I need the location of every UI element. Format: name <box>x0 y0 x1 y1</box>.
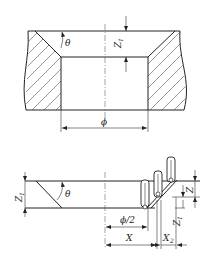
dimension-x2: X 2 <box>150 233 187 245</box>
z1-label-top-sub: 1 <box>117 38 124 42</box>
dimension-z1-top: Z 1 <box>113 16 126 72</box>
chamfer-edge-left <box>35 31 61 57</box>
x-label: X <box>125 233 133 243</box>
dimension-diameter: ϕ <box>61 110 148 132</box>
angle-arc-top <box>61 32 63 48</box>
z-step-label: Z <box>185 186 195 194</box>
half-diameter-label: ϕ/2 <box>120 215 135 225</box>
diameter-label: ϕ <box>101 117 107 127</box>
x2-label-main: X <box>162 233 170 243</box>
bottom-figure: θ Z 1 <box>14 157 200 249</box>
dimension-z-step: Z <box>185 170 195 208</box>
dimension-z1-right: Z 1 <box>172 185 185 227</box>
break-line-right <box>180 31 187 110</box>
tool-2 <box>154 171 162 197</box>
z1-label-right-sub: 1 <box>176 216 183 220</box>
x2-label-sub: 2 <box>169 237 174 244</box>
break-line-left <box>24 31 28 110</box>
chamfer-edge-bottom <box>36 181 62 208</box>
z1-label-left-sub: 1 <box>18 192 25 196</box>
top-figure: θ Z 1 ϕ <box>10 16 195 132</box>
tool-3 <box>167 157 175 182</box>
dimension-z1-left: Z 1 <box>14 172 25 217</box>
diagram-canvas: θ Z 1 ϕ θ <box>0 0 212 265</box>
angle-label-bottom: θ <box>65 189 71 199</box>
tool-1 <box>141 180 149 209</box>
angle-label-top: θ <box>65 38 71 48</box>
dimension-x: X <box>106 233 156 245</box>
angle-arc-bottom <box>57 182 62 200</box>
dimension-half-diameter: ϕ/2 <box>106 215 147 227</box>
